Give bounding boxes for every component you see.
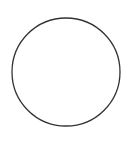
circle-outline [12, 18, 120, 126]
canvas [0, 0, 133, 147]
circle-figure [0, 0, 133, 147]
